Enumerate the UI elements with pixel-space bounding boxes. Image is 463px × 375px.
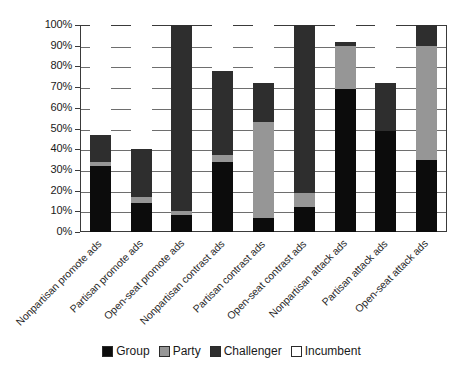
x-axis-label: Nonpartisan attack ads bbox=[267, 238, 349, 320]
bar-segment-challenger bbox=[253, 83, 274, 122]
bar-segment-incumbent bbox=[375, 25, 396, 83]
x-axis-label: Partisan promote ads bbox=[68, 238, 145, 315]
bar-segment-group bbox=[212, 162, 233, 232]
bar-segment-incumbent bbox=[131, 25, 152, 149]
legend-item[interactable]: Group bbox=[102, 345, 149, 357]
y-axis-tick-label: 20% bbox=[32, 185, 72, 196]
legend-label: Party bbox=[173, 345, 201, 357]
legend-label: Group bbox=[116, 345, 149, 357]
bar-stack bbox=[212, 25, 233, 232]
y-axis-tick-label: 70% bbox=[32, 81, 72, 92]
y-axis-tick-label: 100% bbox=[32, 19, 72, 30]
bar-segment-party bbox=[253, 122, 274, 217]
y-axis-tick-label: 40% bbox=[32, 143, 72, 154]
bar-segment-challenger bbox=[416, 25, 437, 46]
legend-item[interactable]: Incumbent bbox=[291, 345, 361, 357]
x-axis-label: Open-seat promote ads bbox=[102, 238, 186, 322]
bar-segment-party bbox=[416, 46, 437, 160]
bar-segment-challenger bbox=[131, 149, 152, 197]
bar-segment-group bbox=[375, 131, 396, 232]
bar-segment-group bbox=[90, 166, 111, 232]
legend-swatch-challenger bbox=[210, 346, 221, 357]
bar-stack bbox=[131, 25, 152, 232]
x-axis-label: Open-seat contrast ads bbox=[225, 238, 308, 321]
bar-stack bbox=[335, 25, 356, 232]
x-axis-labels: Nonpartisan promote adsPartisan promote … bbox=[0, 232, 463, 342]
bar-column bbox=[375, 25, 396, 232]
x-axis-label: Open-seat attack ads bbox=[353, 238, 430, 315]
bar-segment-group bbox=[171, 215, 192, 232]
bar-segment-challenger bbox=[90, 135, 111, 162]
bar-segment-challenger bbox=[294, 25, 315, 193]
chart-container: 100%90%80%70%60%50%40%30%20%10%0% Nonpar… bbox=[0, 0, 463, 375]
legend-label: Challenger bbox=[224, 345, 282, 357]
bar-column bbox=[131, 25, 152, 232]
bar-column bbox=[253, 25, 274, 232]
y-axis-tick-label: 90% bbox=[32, 40, 72, 51]
bar-column bbox=[171, 25, 192, 232]
bar-segment-incumbent bbox=[90, 25, 111, 135]
bar-segment-party bbox=[335, 46, 356, 89]
y-axis-tick-label: 60% bbox=[32, 102, 72, 113]
x-axis-label: Partisan contrast ads bbox=[191, 238, 267, 314]
chart-legend: GroupPartyChallengerIncumbent bbox=[0, 345, 463, 357]
bar-segment-group bbox=[416, 160, 437, 232]
bar-segment-incumbent bbox=[253, 25, 274, 83]
bars-layer bbox=[80, 25, 447, 232]
bar-column bbox=[335, 25, 356, 232]
legend-item[interactable]: Challenger bbox=[210, 345, 282, 357]
bar-stack bbox=[375, 25, 396, 232]
y-axis-tick-label: 30% bbox=[32, 164, 72, 175]
bar-column bbox=[90, 25, 111, 232]
bar-segment-incumbent bbox=[335, 25, 356, 42]
bar-column bbox=[294, 25, 315, 232]
legend-swatch-party bbox=[159, 346, 170, 357]
y-axis-tick-label: 10% bbox=[32, 205, 72, 216]
bar-stack bbox=[90, 25, 111, 232]
y-axis-tick-label: 80% bbox=[32, 60, 72, 71]
bar-segment-challenger bbox=[375, 83, 396, 131]
bar-stack bbox=[416, 25, 437, 232]
bar-segment-challenger bbox=[171, 25, 192, 211]
bar-stack bbox=[171, 25, 192, 232]
bar-column bbox=[416, 25, 437, 232]
legend-label: Incumbent bbox=[305, 345, 361, 357]
bar-segment-group bbox=[131, 203, 152, 232]
legend-item[interactable]: Party bbox=[159, 345, 201, 357]
bar-column bbox=[212, 25, 233, 232]
legend-swatch-group bbox=[102, 346, 113, 357]
bar-segment-group bbox=[294, 207, 315, 232]
bar-segment-party bbox=[294, 193, 315, 207]
bar-stack bbox=[294, 25, 315, 232]
bar-segment-group bbox=[335, 89, 356, 232]
bar-segment-challenger bbox=[212, 71, 233, 156]
bar-segment-incumbent bbox=[212, 25, 233, 71]
bar-stack bbox=[253, 25, 274, 232]
y-axis-tick-label: 50% bbox=[32, 123, 72, 134]
legend-swatch-incumbent bbox=[291, 346, 302, 357]
bar-segment-group bbox=[253, 218, 274, 232]
